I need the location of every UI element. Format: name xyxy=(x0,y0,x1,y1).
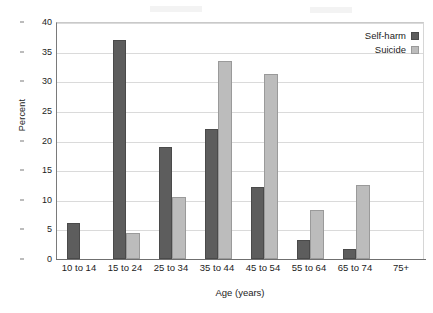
bar-self-harm-25-to-34 xyxy=(159,147,173,259)
bar-suicide-65-to-74 xyxy=(356,185,370,259)
bar-chart: Percent 0510152025303540 10 to 1415 to 2… xyxy=(0,0,433,313)
y-axis-tick-mark xyxy=(20,259,24,260)
x-axis-tick-label: 35 to 44 xyxy=(200,262,234,273)
bar-suicide-55-to-64 xyxy=(310,210,324,259)
legend-label: Suicide xyxy=(375,44,406,55)
y-axis-tick-label: 5 xyxy=(28,224,52,234)
y-axis-tick-mark xyxy=(20,229,24,230)
y-axis-tick-mark xyxy=(20,22,24,23)
y-axis-tick-mark xyxy=(20,110,24,111)
scan-artifact xyxy=(150,6,202,12)
bars-layer xyxy=(57,22,424,259)
bar-self-harm-15-to-24 xyxy=(113,40,127,259)
legend-label: Self-harm xyxy=(365,30,406,41)
bar-suicide-35-to-44 xyxy=(218,61,232,259)
y-axis-tick-mark xyxy=(20,81,24,82)
x-axis-tick-label: 45 to 54 xyxy=(246,262,280,273)
legend-swatch-icon xyxy=(411,32,419,40)
bar-suicide-15-to-24 xyxy=(126,233,140,259)
y-axis-tick-label: 10 xyxy=(28,195,52,205)
scan-artifact xyxy=(310,7,352,13)
x-axis-tick-label: 15 to 24 xyxy=(108,262,142,273)
bar-self-harm-45-to-54 xyxy=(251,187,265,259)
x-axis-tick-label: 10 to 14 xyxy=(62,262,96,273)
y-axis-tick-label: 0 xyxy=(28,254,52,264)
y-axis-tick-label: 20 xyxy=(28,136,52,146)
y-axis-tick-label: 15 xyxy=(28,165,52,175)
y-axis-tick-mark xyxy=(20,170,24,171)
bar-suicide-25-to-34 xyxy=(172,197,186,259)
bar-suicide-45-to-54 xyxy=(264,74,278,259)
y-axis-tick-label: 30 xyxy=(28,76,52,86)
y-axis-tick-mark xyxy=(20,199,24,200)
x-axis-line xyxy=(56,259,426,260)
bar-self-harm-55-to-64 xyxy=(297,240,311,259)
legend-item-self-harm: Self-harm xyxy=(365,30,419,41)
bar-self-harm-10-to-14 xyxy=(67,223,81,259)
x-axis-tick-label: 55 to 64 xyxy=(292,262,326,273)
legend-item-suicide: Suicide xyxy=(375,44,419,55)
y-axis-tick-label: 35 xyxy=(28,47,52,57)
y-axis-tick-labels: 0510152025303540 xyxy=(22,0,52,313)
y-axis-tick-label: 40 xyxy=(28,17,52,27)
x-axis-tick-labels: 10 to 1415 to 2425 to 3435 to 4445 to 54… xyxy=(56,262,424,280)
y-axis-tick-mark xyxy=(20,140,24,141)
x-axis-tick-label: 25 to 34 xyxy=(154,262,188,273)
x-axis-tick-label: 75+ xyxy=(393,262,409,273)
x-axis-tick-label: 65 to 74 xyxy=(338,262,372,273)
chart-legend: Self-harmSuicide xyxy=(365,30,419,55)
legend-swatch-icon xyxy=(411,46,419,54)
y-axis-tick-mark xyxy=(20,51,24,52)
bar-self-harm-35-to-44 xyxy=(205,129,219,259)
x-axis-title: Age (years) xyxy=(56,287,424,298)
bar-self-harm-65-to-74 xyxy=(343,249,357,259)
y-axis-tick-label: 25 xyxy=(28,106,52,116)
